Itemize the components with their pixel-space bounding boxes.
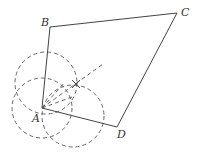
vertex-label-c: C [181, 6, 190, 19]
dashed-segment-1 [42, 82, 65, 108]
geometry-diagram: A B C D [0, 0, 199, 159]
angle-bisector-dashed [42, 64, 103, 108]
vertex-label-b: B [40, 16, 49, 29]
diagram-canvas: A B C D [0, 0, 199, 159]
construction-circle-upper [15, 52, 77, 114]
vertex-label-a: A [31, 112, 40, 125]
vertex-label-d: D [116, 128, 126, 141]
